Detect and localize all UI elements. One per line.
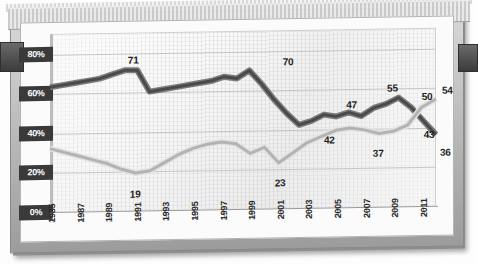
data-point-label: 70	[283, 56, 294, 67]
x-axis-tick-label: 1991	[133, 202, 143, 221]
data-point-label: 43	[424, 129, 435, 140]
data-point-label: 37	[373, 147, 384, 158]
data-point-label: 54	[442, 85, 453, 96]
right-edge-tab	[458, 44, 478, 72]
x-axis-tick-label: 1997	[219, 201, 229, 220]
x-axis-tick-label: 2003	[304, 200, 314, 219]
chart-canvas: 80%60%40%20%0% 1985198719891991199319951…	[20, 16, 452, 241]
x-axis-tick-label: 2007	[362, 199, 372, 218]
x-axis-tick-label: 1987	[76, 203, 86, 222]
x-axis-tick-label: 2009	[390, 198, 400, 217]
x-axis-tick-label: 1993	[161, 202, 171, 221]
x-axis-tick-label: 2011	[419, 198, 429, 217]
data-point-label: 55	[387, 83, 398, 94]
data-point-label: 50	[422, 91, 433, 102]
data-point-label: 36	[440, 146, 451, 157]
data-point-label: 47	[346, 99, 357, 110]
x-axis-tick-label: 2001	[276, 200, 286, 219]
data-point-label: 19	[130, 189, 141, 200]
x-axis-tick-label: 1999	[247, 200, 257, 219]
series-line	[50, 99, 436, 174]
data-point-label: 71	[128, 54, 139, 65]
x-axis-tick-label: 2005	[333, 199, 343, 218]
x-axis-tick-label: 1995	[190, 201, 200, 220]
x-axis-tick-label: 1989	[104, 203, 114, 222]
data-point-label: 23	[275, 177, 286, 188]
data-point-label: 42	[324, 134, 335, 145]
x-axis-tick-label: 1985	[47, 204, 57, 223]
